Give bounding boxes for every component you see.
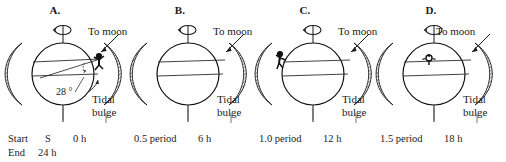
tidal-bulge-label-line2: bulge xyxy=(342,106,366,118)
tidal-bulge-figure: A. xyxy=(0,0,506,162)
tidal-bulge-label-line1: Tidal xyxy=(342,93,365,105)
end-time-label: 24 h xyxy=(38,147,56,158)
to-moon-label: To moon xyxy=(213,25,252,37)
tidal-bulge-label-line1: Tidal xyxy=(92,93,115,105)
tidal-bulge-label-line2: bulge xyxy=(92,106,116,118)
angle-label: 28 ° xyxy=(56,86,73,98)
panel-a: A. xyxy=(0,0,126,162)
period-label-b: 0.5 period xyxy=(134,133,177,144)
time-label-d: 18 h xyxy=(444,133,462,144)
tidal-bulge-left xyxy=(5,43,22,105)
tidal-bulge-label-line2: bulge xyxy=(463,106,487,118)
period-label-c: 1.0 period xyxy=(259,133,302,144)
tidal-bulge-label-line1: Tidal xyxy=(217,93,240,105)
period-label-d: 1.5 period xyxy=(380,133,423,144)
tidal-bulge-label-line2: bulge xyxy=(217,106,241,118)
person-icon xyxy=(94,53,104,70)
rotation-arrow-icon xyxy=(54,26,72,35)
panel-d: D. To moon Tidal xyxy=(376,0,502,162)
to-moon-label: To moon xyxy=(338,25,377,37)
tidal-bulge-left xyxy=(130,43,147,105)
tidal-bulge-left xyxy=(255,43,272,105)
tidal-bulge-left xyxy=(376,43,393,105)
to-moon-label: To moon xyxy=(436,25,475,37)
start-label: Start xyxy=(8,133,28,144)
rotation-arrow-icon xyxy=(304,26,322,35)
south-pole-label: S xyxy=(45,133,51,144)
rotation-arrow-icon xyxy=(179,26,197,35)
panel-b: B. To moon Tidal bulge 0.5 period 6 h xyxy=(125,0,251,162)
end-label: End xyxy=(8,147,25,158)
panel-c: C. To moon xyxy=(250,0,376,162)
tidal-bulge-label-line1: Tidal xyxy=(463,93,486,105)
time-label-a: 0 h xyxy=(73,133,86,144)
to-moon-label: To moon xyxy=(88,25,127,37)
time-label-c: 12 h xyxy=(323,133,341,144)
time-label-b: 6 h xyxy=(198,133,211,144)
